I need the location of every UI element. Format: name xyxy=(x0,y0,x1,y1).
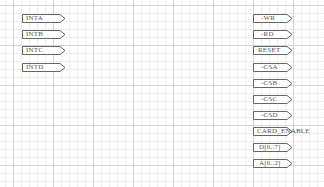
port-label: RESET xyxy=(258,46,280,55)
port-csd[interactable]: -CSD xyxy=(253,111,293,120)
port-csa[interactable]: -CSA xyxy=(253,63,293,72)
port-csc[interactable]: -CSC xyxy=(253,95,293,104)
port-card-enable[interactable]: CARD_ENABLE xyxy=(253,127,293,136)
port-csb[interactable]: -CSB xyxy=(253,79,293,88)
port-data-bus[interactable]: D[0..7] xyxy=(253,143,293,152)
port-inta[interactable]: INTA xyxy=(22,14,66,23)
port-label: INTA xyxy=(26,14,43,23)
port-label: -CSD xyxy=(261,111,278,120)
port-label: CARD_ENABLE xyxy=(257,127,310,136)
port-intb[interactable]: INTB xyxy=(22,30,66,39)
port-label: A[0..2] xyxy=(259,159,281,168)
port-label: D[0..7] xyxy=(259,143,281,152)
port-label: INTB xyxy=(26,30,43,39)
port-wr[interactable]: -WR xyxy=(253,14,293,23)
port-intc[interactable]: INTC xyxy=(22,46,66,55)
port-intd[interactable]: INTD xyxy=(22,63,66,72)
port-label: -CSC xyxy=(261,95,277,104)
port-rd[interactable]: -RD xyxy=(253,30,293,39)
port-label: INTC xyxy=(26,46,43,55)
port-reset[interactable]: RESET xyxy=(253,46,293,55)
port-label: -CSA xyxy=(261,63,278,72)
port-label: -WR xyxy=(261,14,275,23)
port-label: -CSB xyxy=(261,79,277,88)
port-label: INTD xyxy=(26,63,44,72)
port-address-bus[interactable]: A[0..2] xyxy=(253,159,293,168)
port-label: -RD xyxy=(261,30,274,39)
